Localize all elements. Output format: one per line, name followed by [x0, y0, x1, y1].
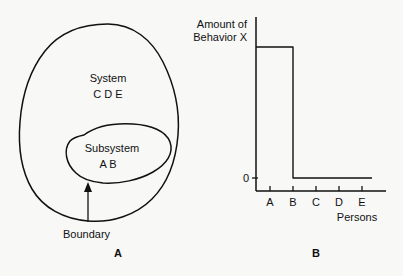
system-label: System — [90, 72, 127, 84]
system-boundary-shape — [19, 24, 178, 221]
panel-a-label: A — [114, 247, 122, 259]
x-tick-label-d: D — [335, 196, 343, 208]
boundary-arrow-head — [84, 182, 92, 192]
subsystem-label: Subsystem — [85, 142, 139, 154]
y-axis-label-line2: Behavior X — [193, 31, 247, 43]
figure-systems-and-behavior: System C D E Subsystem A B Boundary A Am… — [0, 0, 403, 276]
panel-a-group: System C D E Subsystem A B Boundary A — [19, 24, 178, 259]
system-members-label: C D E — [93, 88, 122, 100]
x-tick-label-e: E — [358, 196, 365, 208]
x-tick-label-c: C — [312, 196, 320, 208]
y-axis-label-line1: Amount of — [197, 18, 248, 30]
step-data-series — [256, 47, 372, 178]
x-axis-label: Persons — [337, 211, 378, 223]
boundary-label: Boundary — [63, 228, 111, 240]
x-tick-label-b: B — [289, 196, 296, 208]
subsystem-members-label: A B — [99, 158, 116, 170]
panel-b-label: B — [312, 247, 320, 259]
panel-b-group: Amount of Behavior X 0 A B C D E Persons… — [193, 17, 386, 259]
x-tick-label-a: A — [266, 196, 274, 208]
y-tick-label-0: 0 — [243, 172, 249, 184]
